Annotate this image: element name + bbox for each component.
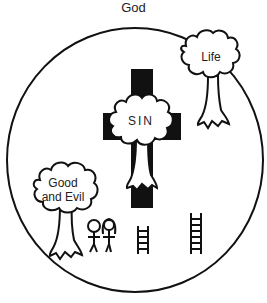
ladder-short-icon <box>138 226 148 254</box>
tree-of-life: Life <box>181 30 239 128</box>
good-label: Good <box>48 176 77 190</box>
tree-of-knowledge: Good and Evil <box>34 163 98 259</box>
person-adam-icon <box>88 220 100 252</box>
person-eve-icon <box>103 219 116 252</box>
sin-cloud: SIN <box>109 94 173 144</box>
evil-label: and Evil <box>42 190 85 204</box>
diagram-canvas: SIN Life Good and Evil <box>0 0 267 303</box>
sin-label: SIN <box>128 114 154 128</box>
life-label: Life <box>201 50 221 64</box>
ladder-tall-icon <box>191 213 201 254</box>
